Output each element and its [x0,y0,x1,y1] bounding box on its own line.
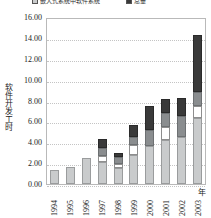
legend-entry-0: 嵌入式系统中软件系统 [32,0,100,5]
legend-entry-1: 总量 [126,0,146,5]
y-axis-tick-label: 14.00 [24,35,42,43]
legend-label: 总量 [134,0,146,5]
bar-segment [129,125,138,137]
bar-segment [50,170,59,184]
bar-1997[interactable] [98,139,107,184]
y-axis-tick-label: 10.00 [24,77,42,85]
y-axis-tick-label: 16.00 [24,14,42,22]
bar-segment [161,127,170,141]
bar-2000[interactable] [145,106,154,184]
chart-legend: 嵌入式系统中软件系统 总量 [32,0,208,6]
x-axis-tick-label: 1998 [114,186,123,216]
y-axis-tick-label: 8.00 [28,98,42,106]
y-axis-tick-labels: 16.0014.0012.0010.008.006.004.002.000.00 [12,14,44,186]
bar-segment [114,157,123,164]
x-axis-tick-labels: 1994199519961997199819992000200120022003 [46,186,206,216]
bar-segment [129,155,138,184]
bar-segment [145,106,154,129]
x-axis-tick-label: 1997 [98,186,107,216]
plot-area [46,18,206,185]
y-axis-tick-label: 6.00 [28,118,42,126]
bar-2001[interactable] [161,99,170,184]
bar-segment [145,146,154,184]
bar-1998[interactable] [114,153,123,184]
x-axis-tick-label: 1996 [82,186,91,216]
bar-segment [161,113,170,127]
y-axis-tick-label: 2.00 [28,160,42,168]
bar-segment [161,140,170,184]
bar-segment [82,158,91,184]
bar-1999[interactable] [129,125,138,184]
bar-segment [193,118,202,184]
bar-2003[interactable] [193,35,202,184]
bar-1995[interactable] [66,167,75,184]
bar-segment [193,35,202,91]
x-axis-tick-label: 1999 [130,186,139,216]
bar-segment [114,168,123,184]
legend-swatch-icon [126,0,132,4]
x-axis-tick-label: 2002 [178,186,187,216]
bar-segment [177,116,186,136]
bar-group [47,19,205,184]
bar-segment [193,92,202,107]
x-axis-tick-label: 1995 [66,186,75,216]
y-axis-tick-label: 4.00 [28,139,42,147]
x-axis-tick-label: 1994 [50,186,59,216]
bar-segment [98,148,107,156]
bar-segment [98,162,107,184]
bar-segment [177,98,186,116]
x-axis-tick-label: 2000 [146,186,155,216]
bar-segment [145,130,154,147]
bar-1994[interactable] [50,170,59,184]
bar-segment [98,139,107,148]
bar-segment [177,137,186,184]
bar-segment [129,137,138,145]
stacked-bar-chart: 嵌入式系统中软件系统 总量 软件开发工时 16.0014.0012.0010.0… [0,0,211,218]
bar-2002[interactable] [177,98,186,184]
legend-swatch-icon [32,0,38,4]
bar-segment [193,106,202,118]
legend-label: 嵌入式系统中软件系统 [40,0,100,5]
bar-segment [161,99,170,113]
y-axis-tick-label: 0.00 [28,181,42,189]
bar-segment [129,145,138,155]
y-axis-tick-label: 12.00 [24,56,42,64]
x-axis-tick-label: 2001 [162,186,171,216]
x-axis-title: 年 [198,188,206,197]
bar-1996[interactable] [82,158,91,184]
bar-segment [66,167,75,184]
